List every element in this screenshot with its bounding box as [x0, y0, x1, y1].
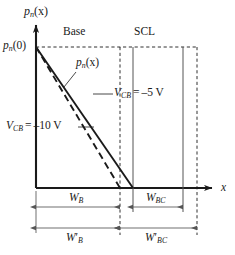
dim-label-wbc-prime: W′BC: [145, 232, 167, 245]
curve-label-pn-x: pn(x): [76, 57, 99, 70]
y-axis-label: pn(x): [24, 5, 48, 19]
region-label-scl: SCL: [134, 26, 155, 38]
dim-wbp-w: W: [66, 231, 76, 243]
dim-wb-sub: B: [79, 196, 84, 205]
dim-wb-w: W: [69, 191, 79, 203]
bias-5-v: V: [114, 86, 121, 98]
dim-label-wb: WB: [69, 192, 83, 205]
bias-5-eq: =: [133, 86, 140, 98]
bias-10-unit: V: [53, 119, 61, 131]
bias-10-sub: CB: [13, 124, 23, 133]
y-axis-label-arg: (x): [34, 4, 48, 18]
dim-wbcp-sub: BC: [157, 236, 167, 245]
dim-wbcp-w: W: [145, 231, 155, 243]
bias-5-value: –5: [142, 86, 154, 98]
x-axis-label: x: [221, 182, 226, 194]
bias-5-sub: CB: [121, 91, 131, 100]
curve-label-arg: (x): [86, 56, 99, 68]
dim-wbp-sub: B: [78, 236, 83, 245]
carrier-concentration-figure: pn(x) pn(0) Base SCL pn(x) VCB=–5V VCB=–…: [0, 0, 235, 255]
pn0-label: pn(0): [3, 40, 26, 53]
bias-10-v: V: [6, 119, 13, 131]
pn0-label-arg: (0): [13, 39, 26, 51]
dim-label-wb-prime: W′B: [66, 232, 83, 245]
bias-label-minus-5v: VCB=–5V: [114, 87, 164, 100]
dim-wbc-w: W: [146, 191, 156, 203]
dim-wbc-sub: BC: [156, 196, 166, 205]
bias-label-minus-10v: VCB=–10V: [6, 120, 62, 133]
bias-5-unit: V: [156, 86, 164, 98]
bias-10-value: –10: [34, 119, 51, 131]
region-label-base: Base: [63, 26, 85, 38]
dim-label-wbc: WBC: [146, 192, 166, 205]
bias-10-eq: =: [25, 119, 32, 131]
pn-x-leader-line: [64, 72, 76, 87]
